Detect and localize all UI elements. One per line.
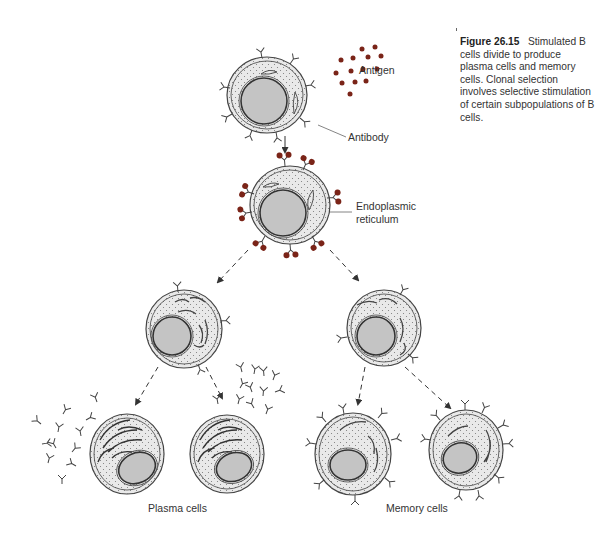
- b-cell-daughter-left: [146, 282, 230, 375]
- antibody-leader-line: [318, 125, 346, 137]
- free-antibodies-left: [32, 392, 101, 484]
- figure-number: Figure 26.15: [460, 36, 519, 47]
- figure-caption-text: Stimulated B cells divide to produce pla…: [460, 36, 594, 123]
- memory-cell-2: [420, 400, 513, 501]
- plasma-cell-1: [90, 414, 164, 494]
- b-cell-top: [219, 47, 315, 142]
- label-reticulum: reticulum: [356, 213, 399, 226]
- label-antigen: Antigen: [359, 64, 395, 77]
- b-cell-stimulated: [237, 151, 342, 258]
- memory-cell-1: [305, 403, 401, 505]
- label-endoplasmic: Endoplasmic: [356, 200, 416, 213]
- caption-tick-mark: [456, 28, 457, 31]
- label-plasma-cells: Plasma cells: [148, 502, 207, 515]
- figure-caption: Figure 26.15 Stimulated B cells divide t…: [460, 36, 595, 124]
- free-antibodies-right: [212, 362, 284, 415]
- b-cell-daughter-right: [336, 284, 421, 366]
- label-antibody: Antibody: [348, 131, 389, 144]
- label-memory-cells: Memory cells: [386, 502, 448, 515]
- plasma-cell-2: [190, 415, 264, 493]
